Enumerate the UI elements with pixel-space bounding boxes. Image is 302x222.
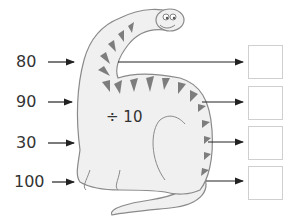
eye-right: [170, 14, 176, 20]
input-value-1: 80: [16, 52, 46, 71]
answer-box-1[interactable]: [248, 45, 283, 79]
input-value-3: 30: [16, 133, 46, 152]
answer-box-4[interactable]: [248, 166, 283, 200]
input-value-2: 90: [16, 92, 46, 111]
answer-box-3[interactable]: [248, 126, 283, 160]
answer-box-2[interactable]: [248, 86, 283, 120]
eye-left: [163, 14, 169, 20]
operation-label: ÷ 10: [106, 108, 142, 126]
input-value-4: 100: [14, 172, 44, 191]
dinosaur-body: [77, 9, 212, 194]
